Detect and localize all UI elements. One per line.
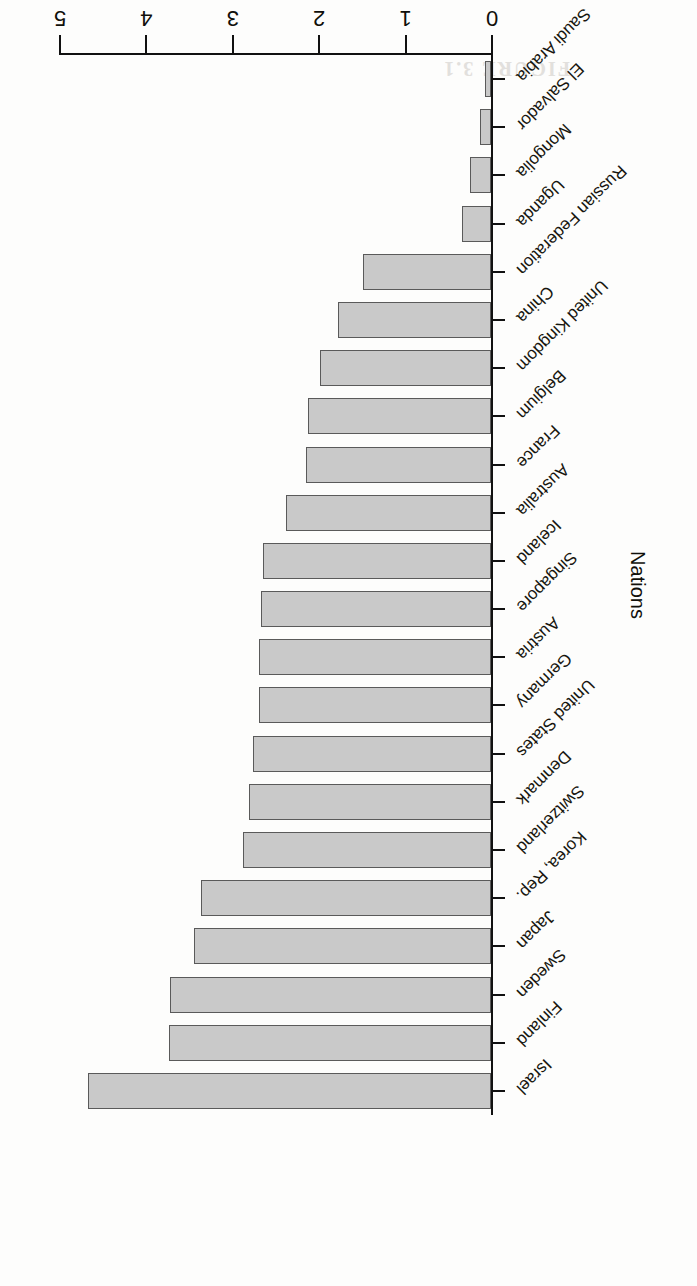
bar [485,61,491,97]
category-axis-title: Nations [626,551,649,619]
bar [249,784,491,820]
bar [201,880,491,916]
category-tick [493,174,505,176]
bar [259,687,491,723]
category-label: Israel [512,1054,556,1098]
bar [243,832,491,868]
category-tick [493,753,505,755]
bar [308,398,491,434]
bar [169,1025,491,1061]
category-axis-line [491,55,493,1115]
bar [470,157,491,193]
value-tick-label: 5 [39,5,81,31]
value-tick [318,35,320,55]
category-label: Sweden [512,944,570,1002]
category-tick [493,271,505,273]
category-tick [493,560,505,562]
category-tick [493,223,505,225]
bar [306,447,491,483]
scanned-page: FIGURE 3.1 012345 Percentage of GDP spen… [0,0,697,1286]
bar [263,543,491,579]
value-tick-label: 3 [212,5,254,31]
category-tick [493,704,505,706]
category-tick [493,126,505,128]
value-tick [145,35,147,55]
category-tick [493,512,505,514]
bar [259,639,491,675]
category-tick [493,849,505,851]
plot-area: IsraelFinlandSwedenJapanKorea, Rep.Switz… [90,55,493,1115]
value-tick-label: 2 [298,5,340,31]
value-tick [59,35,61,55]
value-tick-label: 0 [471,5,513,31]
category-tick [493,1042,505,1044]
category-label: Finland [512,996,566,1050]
rotated-figure-container: 012345 Percentage of GDP spent on R&D Na… [0,0,697,1286]
bar [170,977,491,1013]
bar [363,254,491,290]
value-tick [232,35,234,55]
category-tick [493,801,505,803]
category-tick [493,897,505,899]
category-tick [493,945,505,947]
category-tick [493,319,505,321]
category-tick [493,464,505,466]
category-label: Belgium [512,366,570,424]
category-tick [493,656,505,658]
bar [338,302,491,338]
bar [320,350,491,386]
bar [286,495,491,531]
bar [261,591,491,627]
value-tick [491,35,493,55]
category-tick [493,608,505,610]
value-tick-label: 1 [385,5,427,31]
category-tick [493,367,505,369]
bar [253,736,491,772]
bar [194,928,491,964]
category-tick [493,78,505,80]
value-axis: 012345 [53,0,493,55]
bar [463,206,492,242]
category-tick [493,1090,505,1092]
value-tick [405,35,407,55]
category-tick [493,415,505,417]
value-tick-label: 4 [125,5,167,31]
category-tick [493,994,505,996]
bar [88,1073,491,1109]
bar [480,109,491,145]
bar-chart: 012345 Percentage of GDP spent on R&D Na… [0,0,697,1286]
